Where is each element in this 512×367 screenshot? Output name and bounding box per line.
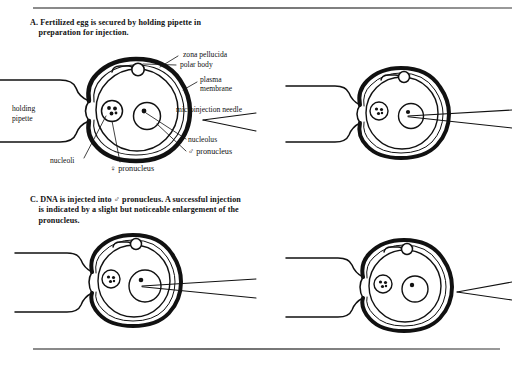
label-polar-body: polar body (180, 60, 213, 69)
label-nucleolus: nucleolus (188, 135, 217, 144)
nucleolus (410, 283, 414, 287)
egg-diagram-d (256, 190, 512, 348)
holding-pipette-upper (15, 253, 92, 272)
label-plasma-membrane-line1: plasma (200, 75, 222, 84)
label-nucleoli: nucleoli (50, 156, 74, 165)
holding-pipette-lower (15, 293, 92, 312)
label-microinjection-needle: microinjection needle (176, 105, 242, 114)
female-pronucleus (370, 102, 388, 120)
bottom-divider-rule (33, 348, 500, 350)
label-zona-pellucida: zona pellucida (183, 50, 227, 59)
polar-body (131, 239, 142, 250)
polar-body (399, 72, 410, 83)
polar-body (132, 63, 144, 75)
panel-a: A. Fertilized egg is secured by holding … (0, 12, 256, 185)
leader-polar-body (143, 64, 176, 65)
male-pronucleus (134, 103, 161, 130)
panel-c: C. DNA is injected into ♂ pronucleus. A … (0, 190, 256, 348)
polar-body (402, 244, 413, 255)
pipette-suction-contact (89, 272, 92, 293)
microinjection-needle-lower-edge (457, 292, 512, 300)
nucleolus (139, 278, 144, 283)
label-female-pronucleus: ♀ pronucleus (110, 164, 154, 173)
male-pronucleus (402, 276, 428, 302)
pipette-suction-contact (360, 277, 363, 298)
panel-b-illustration (256, 12, 512, 185)
holding-pipette-lower (286, 123, 360, 142)
female-pronucleus (102, 270, 120, 288)
panel-b: B. Needle is injected into ♂ pronucleus.… (256, 12, 512, 185)
label-holding-pipette-line1: holding (12, 104, 35, 113)
panel-c-illustration (0, 190, 256, 348)
egg-diagram-a (0, 12, 256, 185)
egg-diagram-c (0, 190, 256, 348)
holding-pipette-lower (0, 121, 89, 142)
pipette-suction-contact (357, 105, 360, 123)
egg-diagram-b (256, 12, 512, 185)
microinjection-needle-lower-edge (408, 117, 512, 128)
nucleolus (142, 109, 147, 114)
microinjection-needle-lower-edge (203, 120, 256, 131)
pipette-suction-contact (86, 101, 90, 121)
label-holding-pipette-line2: pipette (12, 114, 33, 123)
panel-d-illustration (256, 190, 512, 348)
panel-d: D. After removal of the microinjection n… (256, 190, 512, 348)
female-pronucleus (374, 275, 392, 293)
holding-pipette-upper (286, 86, 360, 105)
microinjection-needle-upper-edge (203, 113, 256, 120)
panel-a-illustration: zona pellucida polar body plasma membran… (0, 12, 256, 185)
microinjection-needle-upper-edge (457, 282, 512, 292)
holding-pipette-lower (286, 298, 363, 317)
holding-pipette-upper (0, 80, 89, 101)
holding-pipette-upper (286, 258, 363, 277)
top-divider-rule (33, 7, 512, 9)
label-plasma-membrane-line2: membrane (200, 84, 232, 93)
nucleolus (406, 110, 410, 114)
label-male-pronucleus: ♂ pronucleus (188, 147, 232, 156)
